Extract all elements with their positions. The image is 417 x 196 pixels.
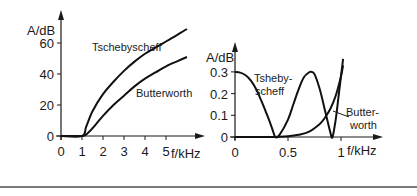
tscheby-label-line1: Tsheby- — [254, 72, 293, 84]
y-tick-label: 0.1 — [210, 108, 228, 123]
left-x-arrow-icon — [195, 133, 205, 139]
right-y-ticks: 00.10.20.3 — [210, 65, 235, 145]
x-tick-label: 1 — [337, 145, 344, 160]
y-tick-label: 0.2 — [210, 87, 228, 102]
left-y-ticks: 0204060 — [40, 36, 61, 144]
tschebyscheff-label: Tschebyscheff — [92, 41, 162, 53]
figure: 0204060 012345 A/dB f/kHz Tschebyscheff … — [0, 0, 417, 196]
right-x-axis-label: f/kHz — [347, 143, 377, 158]
x-tick-label: 0.5 — [279, 145, 297, 160]
right-x-ticks: 00.51 — [231, 137, 344, 160]
y-tick-label: 60 — [40, 36, 54, 51]
y-tick-label: 0 — [47, 129, 54, 144]
y-tick-label: 20 — [40, 98, 54, 113]
left-y-axis-label: A/dB — [27, 23, 55, 38]
left-x-axis-label: f/kHz — [171, 146, 201, 161]
x-tick-label: 4 — [141, 144, 148, 159]
right-y-axis-label: A/dB — [206, 50, 234, 65]
x-tick-label: 0 — [57, 144, 64, 159]
x-tick-label: 1 — [78, 144, 85, 159]
y-tick-label: 0 — [221, 130, 228, 145]
right-x-arrow-icon — [373, 134, 383, 140]
tschebyscheff-ripple-curve — [235, 59, 343, 138]
left-chart: 0204060 012345 A/dB f/kHz Tschebyscheff … — [27, 10, 205, 161]
butter-label-line1: Butter- — [346, 106, 379, 118]
butterworth-label: Butterworth — [136, 87, 192, 99]
left-x-ticks: 012345 — [57, 136, 169, 159]
y-tick-label: 40 — [40, 67, 54, 82]
x-tick-label: 0 — [231, 145, 238, 160]
tscheby-label-line2: scheff — [255, 85, 285, 97]
right-chart: 00.10.20.3 00.51 A/dB f/kHz Tsheby- sche… — [206, 42, 383, 160]
bottom-divider — [0, 186, 417, 188]
x-tick-label: 5 — [162, 144, 169, 159]
butter-label-line2: worth — [349, 119, 377, 131]
x-tick-label: 3 — [120, 144, 127, 159]
x-tick-label: 2 — [99, 144, 106, 159]
left-y-arrow-icon — [58, 10, 64, 20]
y-tick-label: 0.3 — [210, 65, 228, 80]
